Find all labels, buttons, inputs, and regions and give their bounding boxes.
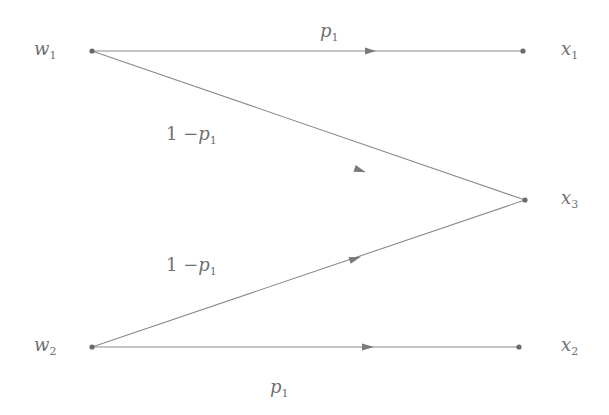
label-x1: x1	[561, 40, 578, 61]
label-base: w	[34, 334, 49, 355]
label-base: p	[320, 20, 332, 41]
arrow-icon	[365, 48, 376, 55]
arrow-icon	[353, 165, 367, 176]
arrow-icon	[362, 344, 374, 351]
label-sub: 1	[332, 31, 339, 44]
diagram-canvas	[0, 0, 609, 415]
label-prefix: 1 −	[166, 254, 198, 275]
label-base: p	[198, 254, 210, 275]
label-w1: w1	[34, 40, 56, 61]
label-prefix: 1 −	[166, 123, 198, 144]
label-base: p	[270, 376, 282, 397]
node-x1	[520, 48, 525, 53]
node-x2	[516, 344, 521, 349]
node-w1	[89, 48, 94, 53]
node-x3	[522, 197, 527, 202]
label-base: x	[561, 38, 571, 59]
edge-label-w2-x2: p1	[270, 378, 289, 399]
label-x3: x3	[561, 189, 578, 210]
label-sub: 1	[282, 387, 289, 400]
label-base: x	[561, 334, 571, 355]
node-w2	[89, 344, 94, 349]
label-sub: 1	[571, 49, 578, 62]
edge-label-w1-x1: p1	[320, 22, 339, 43]
edge-label-w2-x3: 1 −p1	[166, 256, 217, 277]
label-base: w	[34, 38, 49, 59]
edge-label-w1-x3: 1 −p1	[166, 125, 217, 146]
label-base: x	[561, 187, 571, 208]
label-sub: 1	[210, 265, 217, 278]
label-base: p	[198, 123, 210, 144]
label-x2: x2	[561, 336, 578, 357]
label-sub: 2	[49, 345, 56, 358]
edge-w2-x3	[92, 200, 525, 347]
label-w2: w2	[34, 336, 56, 357]
arrow-icon	[348, 253, 362, 263]
edge-w1-x3	[92, 51, 525, 200]
label-sub: 3	[571, 198, 578, 211]
label-sub: 1	[49, 49, 56, 62]
label-sub: 1	[210, 134, 217, 147]
label-sub: 2	[571, 345, 578, 358]
